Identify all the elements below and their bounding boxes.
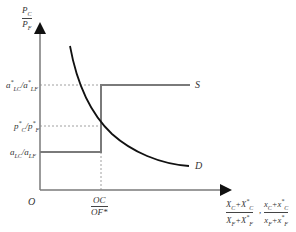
- x-axis-separator: ,: [259, 206, 261, 215]
- supply-curve: [40, 85, 190, 152]
- x-axis-label-2: xC+x*C xF+x*F: [264, 198, 288, 227]
- y-tick-middle: p*C/p*F: [14, 120, 39, 133]
- y-tick-lower: aLC/aLF: [10, 148, 36, 159]
- origin-label: O: [28, 197, 35, 207]
- x-axis-label-1: XC+X*C XF+X*F: [226, 198, 253, 227]
- y-axis-label: PC PF: [22, 6, 32, 31]
- supply-label: S: [195, 79, 200, 90]
- demand-label: D: [195, 160, 202, 171]
- x-tick-label: OC OF*: [91, 196, 108, 218]
- y-tick-upper: a*LC/a*LF: [6, 79, 38, 92]
- demand-curve: [70, 46, 189, 166]
